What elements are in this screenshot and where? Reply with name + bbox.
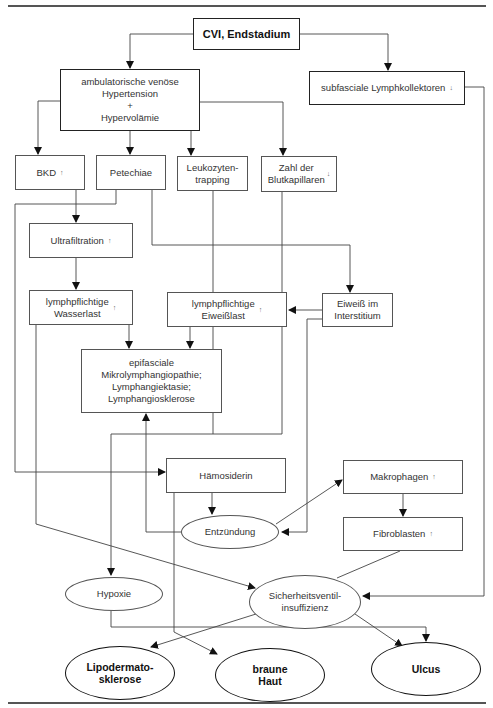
arrow-up-icon: ↑	[432, 471, 436, 483]
node-label: epifasciale Mikrolymphangiopathie; Lymph…	[101, 357, 201, 405]
node-label: lymphpflichtige Eiweißlast	[192, 298, 255, 322]
node-label: Ultrafiltration	[51, 235, 104, 247]
node-entzuendung: Entzündung	[181, 515, 279, 549]
node-label: Entzündung	[205, 526, 256, 538]
node-ambulatorische-hypertension: ambulatorische venöse Hypertension + Hyp…	[60, 69, 200, 131]
node-label: Lipodermato- sklerose	[86, 661, 153, 685]
node-subfasciale-lymphkollektoren: subfasciale Lymphkollektoren ↓	[309, 71, 465, 105]
node-haemosiderin: Hämosiderin	[166, 458, 286, 493]
outcome-ulcus: Ulcus	[371, 642, 481, 696]
node-ultrafiltration: Ultrafiltration ↑	[29, 223, 133, 258]
arrow-up-icon: ↑	[113, 302, 117, 314]
node-hypoxie: Hypoxie	[65, 577, 163, 611]
node-makrophagen: Makrophagen ↑	[343, 460, 463, 494]
arrow-up-icon: ↑	[429, 528, 433, 540]
node-petechiae: Petechiae	[96, 155, 166, 190]
node-cvi-endstadium: CVI, Endstadium	[193, 18, 300, 50]
node-label: Hypoxie	[97, 588, 131, 600]
node-label: Eiweiß im Interstitium	[334, 298, 380, 322]
node-label: Ulcus	[412, 663, 441, 675]
node-label: Hämosiderin	[199, 470, 252, 482]
arrow-up-icon: ↑	[259, 304, 263, 316]
node-fibroblasten: Fibroblasten ↑	[343, 517, 463, 551]
node-bkd: BKD ↑	[15, 155, 85, 190]
node-label: CVI, Endstadium	[203, 28, 290, 40]
node-label: BKD	[36, 167, 56, 179]
node-zahl-blutkapillaren: Zahl der Blutkapillaren ↓	[261, 156, 337, 192]
arrow-up-icon: ↑	[60, 167, 64, 179]
node-eiweiss-im-interstitium: Eiweiß im Interstitium	[322, 293, 393, 327]
node-lymphpflichtige-eiweisslast: lymphpflichtige Eiweißlast ↑	[167, 292, 287, 327]
node-label: lymphpflichtige Wasserlast	[46, 296, 109, 320]
node-leukozytentrapping: Leukozyten- trapping	[177, 156, 248, 191]
arrow-down-icon: ↓	[327, 168, 331, 180]
node-lymphpflichtige-wasserlast: lymphpflichtige Wasserlast ↑	[29, 290, 133, 325]
arrow-up-icon: ↑	[108, 235, 112, 247]
node-label: Sicherheitsventil- insuffizienz	[269, 590, 341, 614]
node-epifasciale-mikrolymphangiopathie: epifasciale Mikrolymphangiopathie; Lymph…	[81, 349, 222, 413]
node-label: Fibroblasten	[373, 528, 425, 540]
outcome-braune-haut: braune Haut	[215, 648, 325, 702]
node-label: Zahl der Blutkapillaren	[268, 162, 325, 186]
node-label: ambulatorische venöse Hypertension + Hyp…	[81, 76, 179, 124]
node-label: subfasciale Lymphkollektoren	[321, 82, 445, 94]
arrow-down-icon: ↓	[449, 82, 453, 94]
node-label: Petechiae	[110, 167, 152, 179]
node-label: braune Haut	[252, 663, 287, 687]
outcome-lipodermatosklerose: Lipodermato- sklerose	[65, 646, 175, 700]
node-label: Makrophagen	[370, 471, 428, 483]
node-sicherheitsventilinsuffizienz: Sicherheitsventil- insuffizienz	[249, 575, 361, 629]
node-label: Leukozyten- trapping	[187, 162, 239, 186]
